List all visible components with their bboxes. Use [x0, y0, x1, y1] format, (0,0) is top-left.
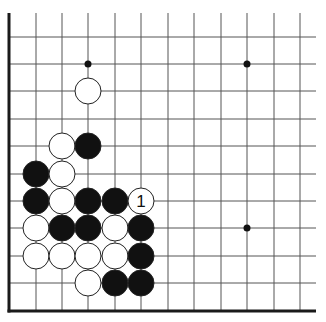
black-stone: [128, 243, 154, 269]
white-stone: [49, 161, 75, 187]
star-point-icon: [85, 61, 92, 68]
white-stone: [75, 78, 101, 104]
white-stone: [102, 215, 128, 241]
black-stone: [23, 161, 49, 187]
move-number-label: 1: [136, 192, 145, 211]
black-stone: [49, 215, 75, 241]
white-stone-numbered: 1: [128, 188, 154, 214]
white-stone: [49, 133, 75, 159]
white-stone: [75, 270, 101, 296]
black-stone: [75, 188, 101, 214]
star-point-icon: [244, 225, 251, 232]
star-point-icon: [244, 61, 251, 68]
white-stone: [23, 215, 49, 241]
black-stone: [128, 270, 154, 296]
black-stone: [23, 188, 49, 214]
go-board: 1: [0, 0, 326, 322]
white-stone: [23, 243, 49, 269]
black-stone: [75, 215, 101, 241]
white-stone: [75, 243, 101, 269]
black-stone: [102, 188, 128, 214]
board-edges: [8, 13, 317, 313]
white-stone: [49, 243, 75, 269]
black-stone: [75, 133, 101, 159]
white-stone: [49, 188, 75, 214]
black-stone: [128, 215, 154, 241]
black-stone: [102, 270, 128, 296]
white-stone: [102, 243, 128, 269]
